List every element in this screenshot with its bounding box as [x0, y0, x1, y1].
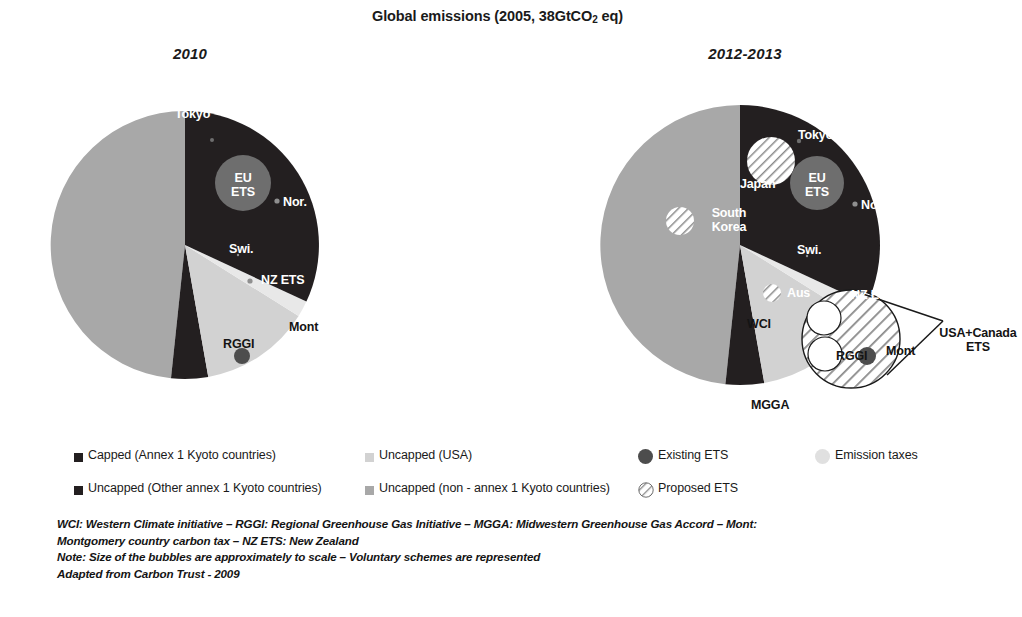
bubble-label-south-2012: South: [698, 207, 760, 221]
bubble-label-wci-2012: WCI: [747, 317, 771, 331]
bubble-aus-2012: [763, 284, 781, 302]
bubble-south-korea-2012: [666, 207, 694, 235]
legend-swatch-existing-ets: [638, 449, 653, 464]
page-title-prefix: Global emissions (2005, 38GtCO: [372, 8, 592, 24]
page-title-suffix: eq): [598, 8, 623, 24]
bubble-label-rggi-2010: RGGI: [223, 337, 254, 351]
bubble-label-mgga-2012: MGGA: [751, 398, 789, 412]
legend-swatch-uncapped-non-annex1: [365, 486, 374, 495]
bubble-label-nor-2010: Nor.: [283, 195, 307, 209]
legend-label-emission-taxes: Emission taxes: [835, 448, 918, 462]
bubble-nz-ets-2010: [247, 278, 252, 283]
bubble-label-tokyo-2012: Tokyo: [798, 128, 833, 142]
legend-label-uncapped-other-annex1: Uncapped (Other annex 1 Kyoto countries): [88, 481, 322, 495]
bubble-label-nor-2012: Nor.: [861, 198, 885, 212]
legend-swatch-emission-taxes: [815, 449, 830, 464]
legend-label-uncapped-non-annex1: Uncapped (non - annex 1 Kyoto countries): [379, 481, 610, 495]
slice-uncapped-non-annex1-2012: [600, 105, 740, 384]
bubble-label-mont-2010: Mont: [289, 320, 318, 334]
bubble-label-eu-2012: EU: [782, 172, 852, 186]
legend-label-uncapped-usa: Uncapped (USA): [379, 448, 472, 462]
pie-chart-2010: [45, 73, 335, 423]
bubble-tokyo-2010: [210, 138, 214, 142]
page-title: Global emissions (2005, 38GtCO2 eq): [0, 8, 995, 25]
pie-panel-2010: 2010 Tokyo EU ETS Nor. Swi. NZ ET: [45, 45, 335, 425]
legend-swatch-uncapped-usa: [365, 453, 374, 462]
pie-caption-2010: 2010: [45, 45, 335, 62]
footnote-line-1: WCI: Western Climate initiative – RGGI: …: [57, 516, 937, 533]
slice-uncapped-non-annex1-2010: [51, 111, 185, 378]
bubble-label-swi-2010: Swi.: [229, 242, 253, 256]
bubble-nor-2010: [274, 198, 279, 203]
legend-label-proposed-ets: Proposed ETS: [658, 481, 738, 495]
bubble-label-eu-ets-2010: EU ETS: [208, 172, 278, 199]
bubble-label-eu-ets-2012: EU ETS: [782, 172, 852, 199]
bubble-label-ets-2012: ETS: [782, 186, 852, 200]
footnote-line-4: Adapted from Carbon Trust - 2009: [57, 566, 937, 583]
callout-label-line2: ETS: [928, 341, 1022, 355]
bubble-label-swi-2012: Swi.: [797, 243, 821, 257]
bubble-label-nz-ets-2012: NZ ETS: [851, 288, 895, 302]
footnote-line-2: Montgomery country carbon tax – NZ ETS: …: [57, 533, 937, 550]
legend-label-capped-annex1: Capped (Annex 1 Kyoto countries): [88, 448, 276, 462]
bubble-label-japan-2012: Japan: [740, 177, 775, 191]
legend-swatch-uncapped-other-annex1: [74, 486, 83, 495]
footnote-line-3: Note: Size of the bubbles are approximat…: [57, 549, 937, 566]
legend-swatch-proposed-ets: [638, 482, 654, 498]
bubble-label-tokyo-2010: Tokyo: [175, 107, 210, 121]
bubble-label-korea-2012: Korea: [698, 221, 760, 235]
pie-caption-2012-2013: 2012-2013: [595, 45, 895, 62]
pie-chart-2012-2013: [595, 73, 995, 423]
bubble-label-aus-2012: Aus: [787, 286, 810, 300]
callout-label-line1: USA+Canada: [928, 327, 1022, 341]
bubble-label-rggi-2012: RGGI: [836, 349, 867, 363]
bubble-wci-2012: [807, 301, 841, 335]
bubble-label-south-korea-2012: South Korea: [698, 207, 760, 234]
legend: Capped (Annex 1 Kyoto countries) Uncappe…: [0, 440, 995, 502]
callout-label-usa-canada-ets: USA+Canada ETS: [928, 327, 1022, 354]
legend-swatch-capped-annex1: [74, 453, 83, 462]
bubble-nor-2012: [852, 201, 857, 206]
bubble-label-eu-2010: EU: [208, 172, 278, 186]
footnotes: WCI: Western Climate initiative – RGGI: …: [57, 516, 937, 582]
bubble-label-nz-ets-2010: NZ ETS: [261, 273, 305, 287]
bubble-label-mont-2012: Mont: [886, 344, 915, 358]
bubble-label-ets-2010: ETS: [208, 186, 278, 200]
pie-panel-2012-2013: 2012-2013: [595, 45, 895, 425]
legend-label-existing-ets: Existing ETS: [658, 448, 728, 462]
